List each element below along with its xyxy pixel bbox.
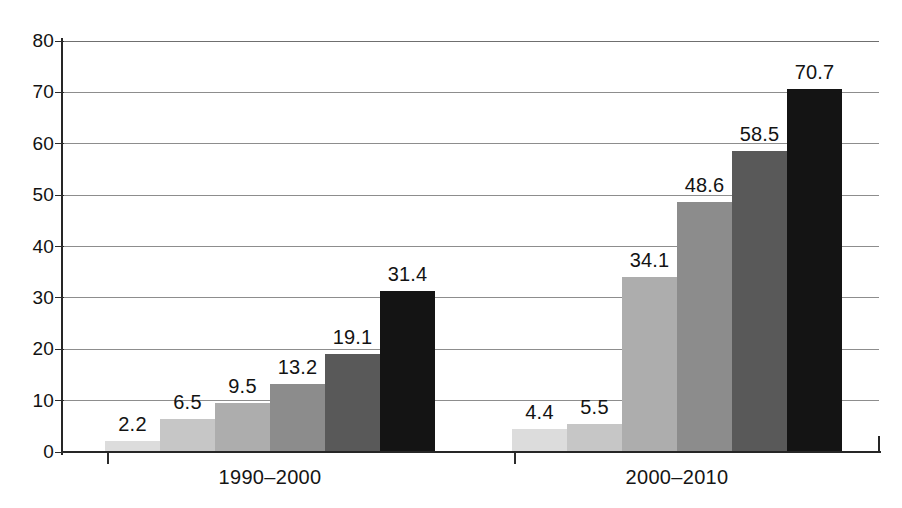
- y-tick-label-60: 60: [8, 134, 54, 153]
- y-tick-20: [55, 349, 64, 350]
- bar-2000-2010-series-5: [732, 151, 787, 452]
- bar-value-label: 34.1: [610, 249, 690, 271]
- bar-value-label: 13.2: [258, 356, 338, 378]
- y-tick-label-50: 50: [8, 185, 54, 204]
- y-tick-10: [55, 400, 64, 401]
- y-tick-60: [55, 143, 64, 144]
- bar-value-label: 19.1: [313, 326, 393, 348]
- bar-value-label: 48.6: [665, 174, 745, 196]
- y-tick-label-40: 40: [8, 237, 54, 256]
- gridline-80: [63, 41, 879, 42]
- y-tick-0: [55, 452, 64, 453]
- y-tick-label-10: 10: [8, 391, 54, 410]
- bar-value-label: 58.5: [720, 123, 800, 145]
- y-tick-label-20: 20: [8, 339, 54, 358]
- y-tick-80: [55, 41, 64, 42]
- y-tick-40: [55, 246, 64, 247]
- bar-value-label: 70.7: [775, 61, 855, 83]
- y-tick-70: [55, 92, 64, 93]
- y-tick-label-0: 0: [8, 442, 54, 461]
- y-tick-label-70: 70: [8, 82, 54, 101]
- y-tick-50: [55, 195, 64, 196]
- bar-2000-2010-series-1: [512, 429, 567, 452]
- category-label-1: 2000–2010: [547, 465, 807, 489]
- bar-value-label: 31.4: [368, 263, 448, 285]
- bar-value-label: 2.2: [93, 413, 173, 435]
- bar-chart: 01020304050607080 1990–20002000–2010 2.2…: [0, 0, 902, 508]
- y-tick-label-30: 30: [8, 288, 54, 307]
- y-tick-label-80: 80: [8, 31, 54, 50]
- category-tick-0: [107, 453, 109, 464]
- gridline-70: [63, 92, 879, 93]
- bar-1990-2000-series-6: [380, 291, 435, 452]
- bar-value-label: 9.5: [203, 375, 283, 397]
- x-axis-right-end-tick: [878, 436, 880, 453]
- category-label-0: 1990–2000: [140, 465, 400, 489]
- bar-2000-2010-series-3: [622, 277, 677, 452]
- bar-2000-2010-series-2: [567, 424, 622, 452]
- x-axis-line: [61, 451, 881, 453]
- y-tick-30: [55, 297, 64, 298]
- bar-value-label: 5.5: [555, 396, 635, 418]
- category-tick-1: [514, 453, 516, 464]
- bar-2000-2010-series-4: [677, 202, 732, 452]
